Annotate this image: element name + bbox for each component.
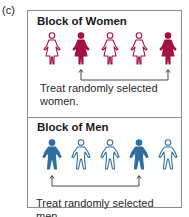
woman-untreated-icon (129, 32, 149, 70)
man-treated-icon (129, 139, 149, 175)
woman-treated-icon (158, 32, 178, 70)
figure-row (28, 32, 181, 66)
woman-treated-icon (71, 32, 91, 70)
woman-untreated-icon (100, 32, 120, 70)
treatment-arrows (28, 174, 183, 190)
block-women: Block of Women Treat randomly selected w… (28, 11, 181, 118)
panel-label: (c) (2, 4, 15, 16)
man-untreated-icon (158, 139, 178, 175)
block-men: Block of Men Treat randomly selected men… (28, 118, 181, 208)
block-caption: Treat randomly selected women. (40, 82, 180, 108)
block-design-diagram: Block of Women Treat randomly selected w… (27, 10, 182, 208)
block-caption: Treat randomly selected men. (36, 197, 181, 217)
figure-row (28, 139, 181, 171)
man-untreated-icon (71, 139, 91, 175)
block-title: Block of Men (37, 121, 109, 133)
man-untreated-icon (100, 139, 120, 175)
man-treated-icon (42, 139, 62, 175)
woman-untreated-icon (42, 32, 62, 70)
block-title: Block of Women (37, 15, 127, 27)
